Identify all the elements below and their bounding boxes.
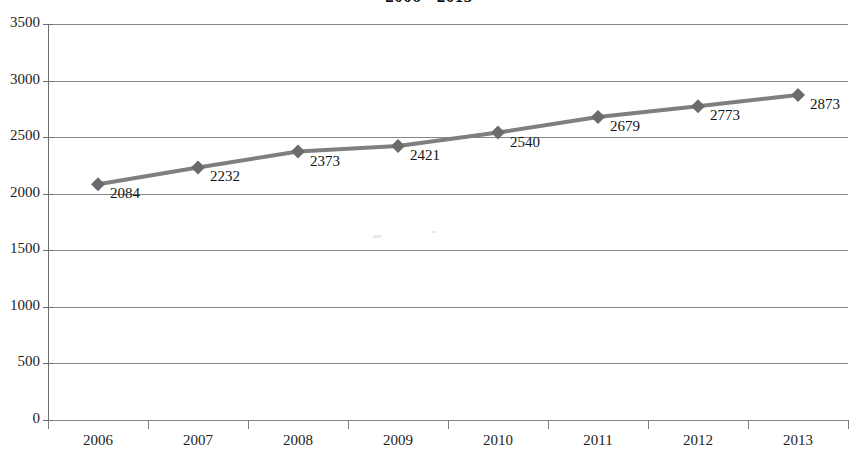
plot-area	[48, 24, 848, 420]
y-axis-tick	[43, 24, 53, 25]
gridline	[48, 81, 848, 82]
x-axis-label: 2009	[383, 432, 413, 449]
data-point-label: 2679	[610, 118, 640, 135]
scan-artifact	[432, 231, 436, 233]
y-axis-tick	[43, 194, 53, 195]
x-axis-tick	[148, 420, 149, 429]
x-axis-tick	[848, 420, 849, 429]
y-axis-tick	[43, 250, 53, 251]
x-axis-tick	[348, 420, 349, 429]
line-chart: 2006 - 2013 0500100015002000250030003500…	[0, 0, 858, 466]
data-point-label: 2373	[310, 153, 340, 170]
y-axis-label: 1500	[0, 240, 40, 257]
y-axis-label: 3500	[0, 14, 40, 31]
y-axis-label: 3000	[0, 71, 40, 88]
gridline	[48, 24, 848, 25]
x-axis-label: 2013	[783, 432, 813, 449]
y-axis-label: 2000	[0, 184, 40, 201]
gridline	[48, 307, 848, 308]
x-axis-tick	[248, 420, 249, 429]
y-axis-label: 500	[0, 353, 40, 370]
x-axis-label: 2012	[683, 432, 713, 449]
y-axis-line	[48, 24, 49, 420]
y-axis-label: 2500	[0, 127, 40, 144]
y-axis-tick	[43, 307, 53, 308]
y-axis-label: 0	[0, 410, 40, 427]
x-axis-tick	[648, 420, 649, 429]
scan-artifact	[373, 235, 382, 238]
x-axis-label: 2006	[83, 432, 113, 449]
y-axis-tick	[43, 137, 53, 138]
y-axis-tick	[43, 363, 53, 364]
x-axis-label: 2011	[583, 432, 612, 449]
gridline	[48, 250, 848, 251]
chart-title: 2006 - 2013	[0, 0, 858, 7]
y-axis-tick	[43, 81, 53, 82]
x-axis-tick	[448, 420, 449, 429]
gridline	[48, 137, 848, 138]
x-axis-label: 2007	[183, 432, 213, 449]
x-axis-label: 2010	[483, 432, 513, 449]
y-axis-label: 1000	[0, 297, 40, 314]
data-point-label: 2773	[710, 107, 740, 124]
x-axis-tick	[48, 420, 49, 429]
data-point-label: 2232	[210, 168, 240, 185]
x-axis-tick	[548, 420, 549, 429]
data-point-label: 2421	[410, 147, 440, 164]
gridline	[48, 194, 848, 195]
x-axis-label: 2008	[283, 432, 313, 449]
data-point-label: 2873	[810, 96, 840, 113]
data-point-label: 2084	[110, 185, 140, 202]
x-axis-tick	[748, 420, 749, 429]
data-point-label: 2540	[510, 134, 540, 151]
gridline	[48, 363, 848, 364]
